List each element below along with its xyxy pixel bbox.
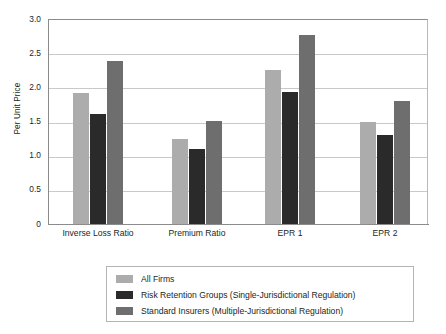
bar — [377, 135, 393, 224]
bar — [172, 139, 188, 224]
bar — [394, 101, 410, 224]
y-tick-label: 1.0 — [29, 150, 41, 160]
bar — [73, 93, 89, 224]
legend-swatch-icon — [116, 291, 133, 299]
x-axis-line — [48, 224, 429, 225]
y-tick-label: 3.0 — [29, 14, 41, 24]
legend-label: All Firms — [141, 274, 174, 284]
bar-chart-figure: Per Unit Price 3.02.52.01.51.00.50 Inver… — [0, 0, 446, 334]
legend-item: All Firms — [116, 273, 174, 285]
y-tick-label: 0 — [36, 219, 41, 229]
bar-groups — [48, 19, 428, 224]
y-tick-label: 0.5 — [29, 184, 41, 194]
bar — [107, 61, 123, 224]
bar — [299, 35, 315, 224]
x-tick-label: EPR 2 — [325, 228, 445, 238]
x-axis-tick-labels: Inverse Loss RatioPremium RatioEPR 1EPR … — [48, 228, 428, 244]
bar-group — [360, 19, 410, 224]
bar-group — [73, 19, 123, 224]
bar — [360, 122, 376, 224]
legend-label: Standard Insurers (Multiple-Jurisdiction… — [141, 306, 343, 316]
legend-swatch-icon — [116, 307, 133, 315]
legend-swatch-icon — [116, 275, 133, 283]
bar — [282, 92, 298, 224]
bar-group — [172, 19, 222, 224]
legend-label: Risk Retention Groups (Single-Jurisdicti… — [141, 290, 355, 300]
bar — [189, 149, 205, 224]
bar-group — [265, 19, 315, 224]
y-tick-label: 2.0 — [29, 82, 41, 92]
chart-legend: All FirmsRisk Retention Groups (Single-J… — [106, 266, 414, 322]
bar — [206, 121, 222, 224]
bar — [265, 70, 281, 224]
y-tick-label: 2.5 — [29, 48, 41, 58]
y-axis-tick-labels: 3.02.52.01.51.00.50 — [0, 0, 45, 334]
y-tick-label: 1.5 — [29, 116, 41, 126]
bar — [90, 114, 106, 224]
legend-item: Standard Insurers (Multiple-Jurisdiction… — [116, 305, 343, 317]
legend-item: Risk Retention Groups (Single-Jurisdicti… — [116, 289, 355, 301]
